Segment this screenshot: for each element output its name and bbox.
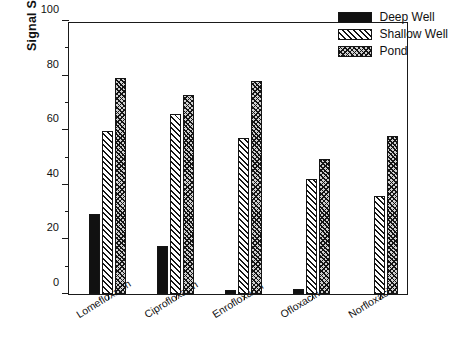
- y-tick-40: [62, 184, 69, 185]
- legend-label-deep-well: Deep Well: [380, 10, 435, 24]
- y-tick-label-80: 80: [47, 58, 59, 70]
- bar-enrofloxacin-deep-well: [225, 290, 236, 294]
- y-tick-20: [62, 238, 69, 239]
- cropped-header-text: [95, 0, 395, 6]
- y-minor-tick-10: [65, 266, 69, 267]
- bar-ofloxacin-deep-well: [293, 289, 304, 294]
- legend-item-deep-well: Deep Well: [338, 10, 448, 24]
- figure-canvas: Signal Suppression (%) 020406080100 Lome…: [0, 0, 458, 360]
- bar-ciprofloxacin-shallow-well: [170, 114, 181, 294]
- y-minor-tick-50: [65, 157, 69, 158]
- legend-item-shallow-well: Shallow Well: [338, 27, 448, 41]
- y-minor-tick-70: [65, 102, 69, 103]
- bar-enrofloxacin-shallow-well: [238, 138, 249, 294]
- legend: Deep WellShallow WellPond: [338, 10, 448, 58]
- bar-lomefloxacin-pond: [115, 78, 126, 294]
- y-tick-label-100: 100: [41, 3, 59, 15]
- legend-item-pond: Pond: [338, 44, 448, 58]
- bar-norfloxacin-shallow-well: [374, 196, 385, 294]
- legend-swatch-shallow-well: [338, 29, 372, 40]
- legend-label-shallow-well: Shallow Well: [380, 27, 448, 41]
- bar-norfloxacin-pond: [387, 136, 398, 294]
- bar-ciprofloxacin-deep-well: [157, 246, 168, 294]
- y-tick-100: [62, 20, 69, 21]
- y-tick-label-20: 20: [47, 221, 59, 233]
- y-tick-label-60: 60: [47, 112, 59, 124]
- y-tick-60: [62, 129, 69, 130]
- legend-swatch-deep-well: [338, 12, 372, 23]
- bar-enrofloxacin-pond: [251, 81, 262, 294]
- y-tick-label-40: 40: [47, 167, 59, 179]
- y-tick-80: [62, 75, 69, 76]
- legend-swatch-pond: [338, 46, 372, 57]
- legend-label-pond: Pond: [380, 44, 408, 58]
- y-tick-0: [62, 293, 69, 294]
- y-minor-tick-30: [65, 211, 69, 212]
- y-tick-label-0: 0: [53, 276, 59, 288]
- bar-ofloxacin-pond: [319, 159, 330, 294]
- bar-ofloxacin-shallow-well: [306, 179, 317, 294]
- bar-lomefloxacin-deep-well: [89, 214, 100, 294]
- plot-area: Signal Suppression (%) 020406080100 Lome…: [68, 22, 408, 295]
- bar-ciprofloxacin-pond: [183, 95, 194, 294]
- y-minor-tick-90: [65, 47, 69, 48]
- y-axis-label: Signal Suppression (%): [25, 0, 39, 51]
- bar-lomefloxacin-shallow-well: [102, 131, 113, 294]
